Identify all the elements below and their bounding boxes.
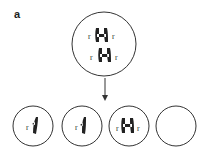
allele-label: r <box>26 123 29 132</box>
replicated-chromosome: r r <box>88 28 115 42</box>
allele-label: r <box>116 124 119 133</box>
meiosis-diagram: r r r r r r r r <box>0 0 211 159</box>
parent-cell: r r r r <box>72 12 136 76</box>
daughter-cell: r <box>13 106 53 146</box>
allele-label: r <box>88 32 91 41</box>
down-arrow-icon <box>102 78 108 101</box>
daughter-cell: r <box>62 106 102 146</box>
replicated-chromosome: r r <box>90 48 118 62</box>
daughter-cell: r r <box>109 106 149 146</box>
allele-label: r <box>137 124 140 133</box>
allele-label: r <box>115 53 118 62</box>
allele-label: r <box>75 123 78 132</box>
allele-label: r <box>90 53 93 62</box>
daughter-cell-empty <box>156 106 196 146</box>
allele-label: r <box>112 32 115 41</box>
